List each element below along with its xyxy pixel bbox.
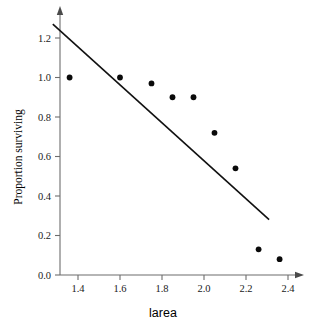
- x-axis-ticks: 1.41.61.82.02.22.4: [71, 275, 295, 294]
- x-tick-label: 1.6: [113, 283, 126, 294]
- y-axis-ticks: 0.00.20.40.60.81.01.2: [38, 33, 60, 281]
- data-point-marker: [149, 81, 155, 87]
- data-point-marker: [212, 130, 218, 136]
- y-tick-label: 0.8: [38, 112, 51, 123]
- y-tick-label: 0.0: [38, 270, 51, 281]
- data-point-marker: [256, 246, 262, 252]
- x-tick-label: 2.0: [197, 283, 210, 294]
- y-tick-label: 0.2: [38, 230, 51, 241]
- x-axis-arrow-icon: [295, 272, 304, 278]
- data-point-marker: [170, 94, 176, 100]
- y-tick-label: 0.4: [38, 191, 52, 202]
- data-point-marker: [117, 75, 123, 81]
- x-tick-label: 2.2: [239, 283, 252, 294]
- y-axis-title: Proportion surviving: [12, 109, 25, 205]
- scatter-plot-figure: 1.41.61.82.02.22.4 0.00.20.40.60.81.01.2…: [0, 0, 318, 327]
- x-tick-label: 2.4: [281, 283, 295, 294]
- fitted-regression-line: [53, 24, 269, 220]
- y-tick-label: 1.2: [38, 33, 51, 44]
- y-tick-label: 1.0: [38, 72, 51, 83]
- regression-line: [53, 24, 269, 220]
- data-point-marker: [191, 94, 197, 100]
- axes-group: [57, 6, 304, 278]
- data-point-marker: [67, 75, 73, 81]
- data-point-marker: [233, 165, 239, 171]
- chart-canvas: 1.41.61.82.02.22.4 0.00.20.40.60.81.01.2…: [0, 0, 318, 327]
- y-tick-label: 0.6: [38, 151, 51, 162]
- data-points: [67, 75, 283, 263]
- x-tick-label: 1.8: [155, 283, 168, 294]
- x-tick-label: 1.4: [71, 283, 85, 294]
- y-axis-arrow-icon: [57, 6, 63, 15]
- x-axis-title: larea: [149, 306, 177, 320]
- data-point-marker: [277, 256, 283, 262]
